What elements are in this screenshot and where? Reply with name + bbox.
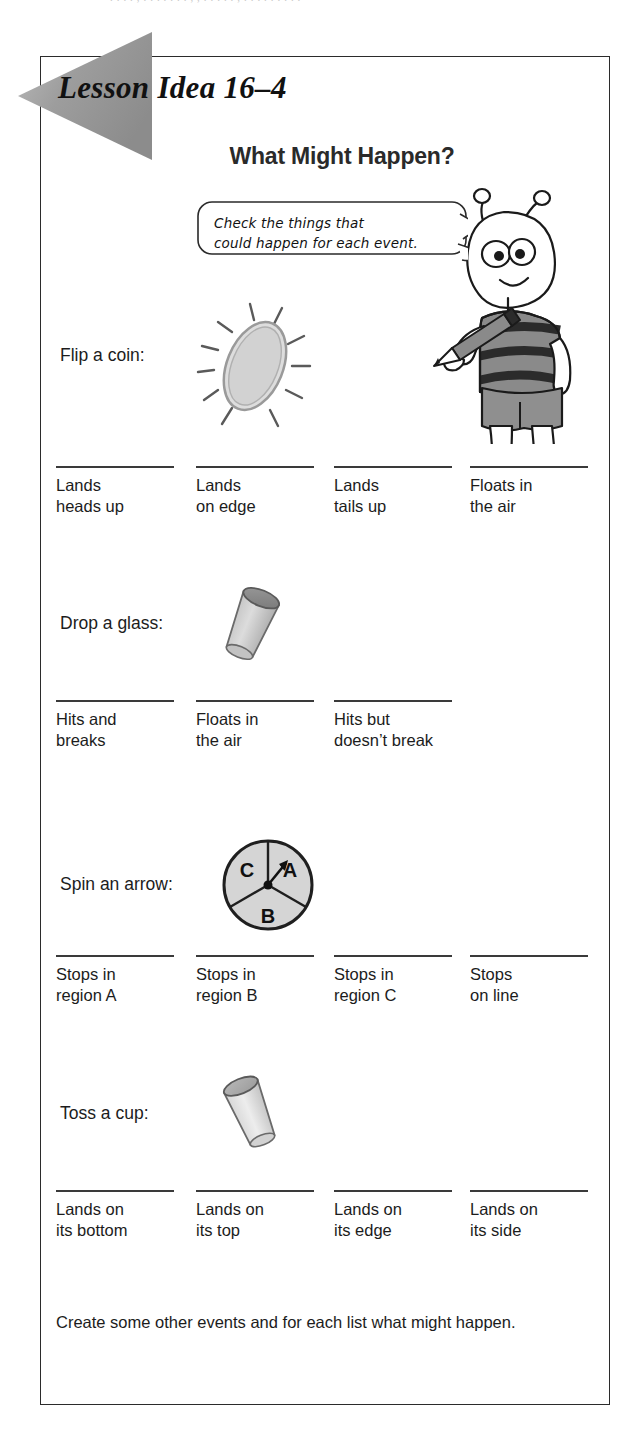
option-label: Landsheads up	[56, 475, 174, 517]
event-label-toss-a-cup: Toss a cup:	[60, 1103, 149, 1124]
coin-icon	[188, 294, 323, 434]
check-line[interactable]	[334, 955, 452, 957]
check-line[interactable]	[196, 1190, 314, 1192]
option-floats-in-the-air[interactable]: Floats inthe air	[196, 700, 314, 751]
option-hits-and-breaks[interactable]: Hits andbreaks	[56, 700, 174, 751]
option-lands-on-its-top[interactable]: Lands onits top	[196, 1190, 314, 1241]
option-label: Landson edge	[196, 475, 314, 517]
check-line[interactable]	[334, 1190, 452, 1192]
check-line[interactable]	[56, 955, 174, 957]
cup-icon	[205, 1062, 300, 1167]
instruction-line-1: Check the things that	[214, 215, 364, 231]
option-lands-heads-up[interactable]: Landsheads up	[56, 466, 174, 517]
option-lands-on-its-edge[interactable]: Lands onits edge	[334, 1190, 452, 1241]
check-line[interactable]	[56, 466, 174, 468]
option-stops-in-region-b[interactable]: Stops inregion B	[196, 955, 314, 1006]
check-line[interactable]	[470, 466, 588, 468]
scan-artifact-top-text: . . . . , . . . . . . . , , . . . . . , …	[110, 0, 625, 5]
option-label: Floats inthe air	[196, 709, 314, 751]
spinner-region-c-label: C	[240, 859, 254, 881]
footer-instruction: Create some other events and for each li…	[56, 1311, 584, 1334]
instruction-line-2: could happen for each event.	[214, 235, 418, 251]
option-label: Landstails up	[334, 475, 452, 517]
option-stops-in-region-c[interactable]: Stops inregion C	[334, 955, 452, 1006]
option-lands-on-its-side[interactable]: Lands onits side	[470, 1190, 588, 1241]
option-hits-but-doesnt-break[interactable]: Hits butdoesn’t break	[334, 700, 499, 751]
option-label: Lands onits top	[196, 1199, 314, 1241]
check-line[interactable]	[196, 955, 314, 957]
option-label: Floats inthe air	[470, 475, 588, 517]
option-lands-on-its-bottom[interactable]: Lands onits bottom	[56, 1190, 174, 1241]
check-line[interactable]	[196, 466, 314, 468]
option-label: Stopson line	[470, 964, 588, 1006]
option-lands-on-edge[interactable]: Landson edge	[196, 466, 314, 517]
glass-icon	[205, 576, 295, 676]
check-line[interactable]	[470, 1190, 588, 1192]
option-label: Lands onits edge	[334, 1199, 452, 1241]
event-label-flip-a-coin: Flip a coin:	[60, 345, 145, 366]
spinner-region-b-label: B	[261, 905, 275, 927]
check-line[interactable]	[196, 700, 314, 702]
check-line[interactable]	[334, 700, 452, 702]
spinner-icon: C A B	[218, 833, 318, 937]
option-label: Lands onits side	[470, 1199, 588, 1241]
check-line[interactable]	[56, 1190, 174, 1192]
event-label-drop-a-glass: Drop a glass:	[60, 613, 163, 634]
check-line[interactable]	[56, 700, 174, 702]
check-line[interactable]	[470, 955, 588, 957]
option-stops-on-line[interactable]: Stopson line	[470, 955, 588, 1006]
option-label: Hits butdoesn’t break	[334, 709, 499, 751]
option-label: Stops inregion B	[196, 964, 314, 1006]
check-line[interactable]	[334, 466, 452, 468]
worksheet-page: . . . . , . . . . . . . , , . . . . . , …	[0, 0, 638, 1436]
option-stops-in-region-a[interactable]: Stops inregion A	[56, 955, 174, 1006]
option-floats-in-the-air[interactable]: Floats inthe air	[470, 466, 588, 517]
option-lands-tails-up[interactable]: Landstails up	[334, 466, 452, 517]
option-label: Stops inregion A	[56, 964, 174, 1006]
instruction-text: Check the things that could happen for e…	[214, 213, 458, 253]
page-title: Lesson Idea 16–4	[58, 70, 287, 106]
option-label: Lands onits bottom	[56, 1199, 174, 1241]
option-label: Hits andbreaks	[56, 709, 174, 751]
option-label: Stops inregion C	[334, 964, 452, 1006]
worksheet-subtitle: What Might Happen?	[0, 143, 638, 170]
event-label-spin-an-arrow: Spin an arrow:	[60, 874, 173, 895]
